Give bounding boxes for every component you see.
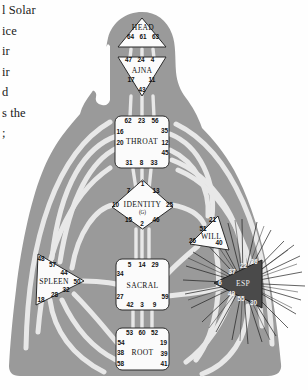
bodygraph-svg: HEAD 64 61 63 AJNA 47 24 4 17 11 43 THRO… bbox=[0, 0, 308, 390]
gate-49[interactable]: 49 bbox=[228, 290, 236, 297]
gate-4[interactable]: 4 bbox=[151, 56, 155, 63]
gate-18[interactable]: 18 bbox=[37, 296, 45, 303]
gate-56[interactable]: 56 bbox=[151, 117, 159, 124]
gate-64[interactable]: 64 bbox=[127, 33, 135, 40]
gate-58[interactable]: 58 bbox=[117, 360, 125, 367]
gate-30[interactable]: 30 bbox=[250, 299, 258, 306]
gate-44[interactable]: 44 bbox=[60, 269, 68, 276]
gate-10[interactable]: 10 bbox=[112, 201, 120, 208]
gate-48[interactable]: 48 bbox=[37, 255, 45, 262]
center-spleen-label: SPLEEN bbox=[39, 277, 69, 286]
gate-33[interactable]: 33 bbox=[150, 159, 158, 166]
gate-38[interactable]: 38 bbox=[117, 349, 125, 356]
gate-59[interactable]: 59 bbox=[161, 293, 169, 300]
center-sacral-label: SACRAL bbox=[127, 281, 159, 290]
gate-39[interactable]: 39 bbox=[160, 350, 168, 357]
gate-32[interactable]: 32 bbox=[62, 286, 70, 293]
gate-47[interactable]: 47 bbox=[125, 56, 133, 63]
gate-27[interactable]: 27 bbox=[116, 293, 124, 300]
gate-21[interactable]: 21 bbox=[209, 216, 217, 223]
gate-17[interactable]: 17 bbox=[127, 76, 135, 83]
gate-41[interactable]: 41 bbox=[160, 360, 168, 367]
gate-54[interactable]: 54 bbox=[117, 339, 125, 346]
center-head-label: HEAD bbox=[132, 23, 155, 32]
gate-36[interactable]: 36 bbox=[250, 258, 258, 265]
gate-14[interactable]: 14 bbox=[138, 261, 146, 268]
center-esp-label: ESP bbox=[236, 279, 250, 288]
gate-40[interactable]: 40 bbox=[215, 239, 223, 246]
gate-42[interactable]: 42 bbox=[126, 301, 134, 308]
center-root[interactable]: ROOT 53 60 52 54 19 38 39 58 41 bbox=[116, 328, 169, 370]
center-sacral[interactable]: SACRAL 5 14 29 34 27 59 42 3 9 bbox=[116, 259, 169, 310]
gate-22[interactable]: 22 bbox=[240, 262, 248, 269]
center-root-label: ROOT bbox=[132, 348, 154, 357]
gate-26[interactable]: 26 bbox=[189, 237, 197, 244]
center-identity-sublabel: (G) bbox=[139, 209, 146, 216]
gate-45[interactable]: 45 bbox=[161, 149, 169, 156]
gate-2[interactable]: 2 bbox=[140, 220, 144, 227]
gate-29[interactable]: 29 bbox=[151, 261, 159, 268]
gate-57[interactable]: 57 bbox=[49, 261, 57, 268]
gate-5[interactable]: 5 bbox=[128, 261, 132, 268]
bodygraph-figure: l Solar ice ir ir d s the ; bbox=[0, 0, 308, 390]
gate-24[interactable]: 24 bbox=[137, 56, 145, 63]
gate-6[interactable]: 6 bbox=[218, 279, 222, 286]
gate-3[interactable]: 3 bbox=[140, 301, 144, 308]
gate-62[interactable]: 62 bbox=[124, 117, 132, 124]
gate-31[interactable]: 31 bbox=[125, 159, 133, 166]
gate-12[interactable]: 12 bbox=[161, 139, 169, 146]
gate-61[interactable]: 61 bbox=[139, 33, 147, 40]
gate-43[interactable]: 43 bbox=[138, 86, 146, 93]
gate-35[interactable]: 35 bbox=[161, 127, 169, 134]
gate-13[interactable]: 13 bbox=[152, 187, 160, 194]
gate-23[interactable]: 23 bbox=[138, 117, 146, 124]
gate-50[interactable]: 50 bbox=[73, 278, 81, 285]
center-throat[interactable]: THROAT 62 23 56 16 35 20 12 45 31 8 33 bbox=[115, 116, 169, 168]
gate-55[interactable]: 55 bbox=[237, 295, 245, 302]
center-ajna-label: AJNA bbox=[132, 66, 153, 75]
gate-8[interactable]: 8 bbox=[140, 159, 144, 166]
gate-7[interactable]: 7 bbox=[127, 187, 131, 194]
gate-28[interactable]: 28 bbox=[51, 291, 59, 298]
gate-46[interactable]: 46 bbox=[152, 216, 160, 223]
gate-53[interactable]: 53 bbox=[126, 329, 134, 336]
gate-20[interactable]: 20 bbox=[116, 139, 124, 146]
gate-1[interactable]: 1 bbox=[141, 180, 145, 187]
gate-9[interactable]: 9 bbox=[153, 301, 157, 308]
gate-19[interactable]: 19 bbox=[160, 339, 168, 346]
gate-63[interactable]: 63 bbox=[152, 33, 160, 40]
gate-60[interactable]: 60 bbox=[138, 329, 146, 336]
gate-25[interactable]: 25 bbox=[166, 201, 174, 208]
gate-52[interactable]: 52 bbox=[151, 329, 159, 336]
center-throat-label: THROAT bbox=[126, 137, 158, 146]
gate-15[interactable]: 15 bbox=[125, 216, 133, 223]
gate-37[interactable]: 37 bbox=[228, 268, 236, 275]
gate-34[interactable]: 34 bbox=[116, 270, 124, 277]
center-identity-label: IDENTITY bbox=[124, 200, 162, 209]
gate-51[interactable]: 51 bbox=[199, 225, 207, 232]
gate-11[interactable]: 11 bbox=[149, 76, 156, 83]
gate-16[interactable]: 16 bbox=[116, 128, 124, 135]
